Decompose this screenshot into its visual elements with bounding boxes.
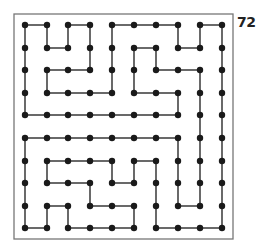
grid-dot [87,22,93,28]
grid-dot [109,225,115,231]
grid-dot [87,225,93,231]
grid-dot [65,180,71,186]
grid-dots [22,22,225,231]
grid-dot [153,203,159,209]
grid-dot [131,225,137,231]
grid-dot [22,225,28,231]
grid-dot [175,225,181,231]
grid-dot [109,180,115,186]
grid-dot [153,22,159,28]
grid-dot [131,22,137,28]
grid-dot [219,112,225,118]
grid-dot [219,67,225,73]
path-lines [25,25,222,228]
grid-dot [175,203,181,209]
grid-dot [65,203,71,209]
grid-dot [153,112,159,118]
grid-dot [65,112,71,118]
grid-dot [219,158,225,164]
grid-dot [109,112,115,118]
grid-dot [109,90,115,96]
grid-dot [175,45,181,51]
grid-dot [65,90,71,96]
grid-dot [197,45,203,51]
grid-dot [109,135,115,141]
grid-dot [197,203,203,209]
grid-dot [44,225,50,231]
grid-dot [22,135,28,141]
grid-dot [87,90,93,96]
grid-dot [153,225,159,231]
grid-dot [44,112,50,118]
grid-dot [219,22,225,28]
grid-dot [219,203,225,209]
grid-dot [22,112,28,118]
grid-dot [87,180,93,186]
grid-dot [131,112,137,118]
grid-dot [153,90,159,96]
grid-dot [219,180,225,186]
grid-dot [109,67,115,73]
grid-dot [22,158,28,164]
grid-dot [219,225,225,231]
grid-dot [87,112,93,118]
grid-dot [197,90,203,96]
grid-dot [22,203,28,209]
grid-dot [65,45,71,51]
puzzle-number: 72 [237,14,255,30]
grid-dot [153,135,159,141]
grid-dot [153,67,159,73]
grid-dot [175,135,181,141]
grid-dot [44,90,50,96]
grid-dot [109,45,115,51]
grid-dot [87,67,93,73]
grid-dot [175,112,181,118]
grid-dot [131,158,137,164]
grid-dot [44,135,50,141]
grid-dot [131,90,137,96]
grid-dot [22,90,28,96]
grid-dot [44,45,50,51]
grid-dot [109,158,115,164]
grid-dot [22,22,28,28]
grid-dot [65,22,71,28]
grid-dot [153,180,159,186]
grid-dot [131,67,137,73]
grid-dot [175,158,181,164]
grid-dot [87,45,93,51]
grid-dot [131,135,137,141]
grid-dot [197,67,203,73]
grid-dot [109,203,115,209]
grid-dot [175,67,181,73]
grid-dot [44,180,50,186]
grid-dot [65,158,71,164]
grid-dot [44,67,50,73]
grid-dot [219,90,225,96]
grid-dot [219,45,225,51]
grid-dot [153,158,159,164]
grid-dot [175,90,181,96]
grid-dot [65,135,71,141]
grid-dot [175,180,181,186]
grid-dot [131,45,137,51]
grid-dot [22,45,28,51]
grid-dot [87,135,93,141]
grid-dot [197,158,203,164]
grid-dot [131,180,137,186]
grid-dot [175,22,181,28]
grid-dot [197,225,203,231]
grid-dot [197,22,203,28]
grid-dot [44,22,50,28]
grid-dot [87,158,93,164]
grid-dot [197,112,203,118]
grid-dot [44,158,50,164]
grid-dot [197,180,203,186]
grid-dot [87,203,93,209]
grid-dot [109,22,115,28]
grid-dot [44,203,50,209]
grid-dot [22,180,28,186]
grid-dot [65,67,71,73]
grid-dot [65,225,71,231]
grid-dot [153,45,159,51]
grid-dot [219,135,225,141]
